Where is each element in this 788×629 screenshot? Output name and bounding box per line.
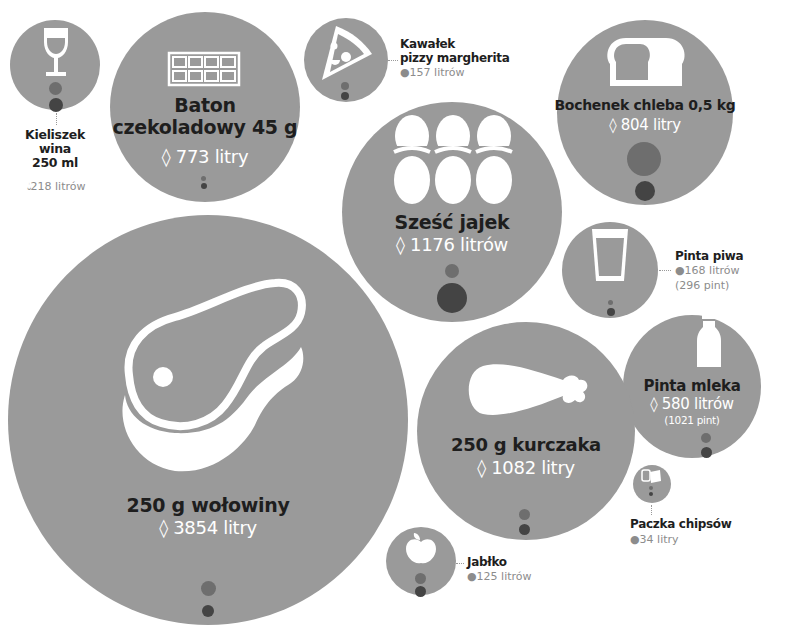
pizza-title: Kawałek pizzy margherita	[400, 37, 510, 65]
dot-blue-water	[627, 142, 661, 176]
dot-grey-water	[437, 283, 467, 313]
chocolate-title: Baton czekoladowy 45 g	[110, 94, 300, 138]
eggs-value: ◊ 1176 litrów	[342, 234, 562, 255]
apple-value: ●125 litrów	[467, 570, 532, 583]
dot-grey-water	[49, 98, 63, 112]
wine-value: 💧︎218 litrów	[10, 180, 102, 193]
chocolate-value: ◊ 773 litry	[110, 146, 300, 167]
dot-grey-water	[519, 524, 530, 535]
apple-title: Jabłko	[467, 555, 507, 569]
dot-grey-water	[415, 586, 426, 597]
dot-grey-water	[635, 181, 655, 201]
apple-icon	[406, 531, 436, 565]
bubble-chicken	[417, 322, 635, 540]
water-drop-icon: ◊	[609, 116, 616, 134]
beer-sub: (296 pint)	[675, 279, 729, 292]
chips-value: ●34 litry	[630, 533, 679, 546]
beef-title: 250 g wołowiny	[8, 494, 408, 516]
bread-title: Bochenek chleba 0,5 kg	[550, 97, 740, 113]
beer-value: ●168 litrów	[675, 264, 740, 277]
leader-line	[56, 113, 57, 125]
wine-glass-icon	[38, 26, 74, 80]
dot-grey-water	[201, 183, 207, 189]
dot-blue-water	[701, 433, 711, 443]
dot-blue-water	[201, 176, 206, 181]
dot-blue-water	[201, 581, 216, 596]
chips-title: Paczka chipsów	[630, 517, 732, 531]
leader-line	[388, 60, 398, 61]
water-drop-icon: ●	[400, 66, 410, 79]
wine-title: Kieliszek wina 250 ml	[10, 128, 100, 170]
dot-blue-water	[608, 300, 613, 305]
water-drop-icon: ●	[675, 264, 685, 277]
dot-grey-water	[202, 605, 214, 617]
chicken-leg-icon	[463, 362, 589, 418]
pizza-value: ●157 litrów	[400, 66, 465, 79]
leader-line	[659, 270, 671, 271]
water-drop-icon: ◊	[477, 457, 486, 478]
leader-line	[651, 505, 652, 515]
milk-bottle-icon	[697, 315, 721, 367]
dot-grey-water	[607, 308, 615, 316]
water-drop-icon: ◊	[650, 395, 657, 413]
dot-blue-water	[415, 573, 426, 584]
dot-blue-water	[445, 264, 459, 278]
water-drop-icon: ●	[630, 533, 640, 546]
beer-glass-icon	[592, 229, 628, 281]
chicken-value: ◊ 1082 litry	[417, 457, 635, 478]
milk-sub: (1021 pint)	[623, 414, 761, 426]
water-drop-icon: ◊	[396, 234, 405, 255]
bread-value: ◊ 804 litry	[557, 116, 733, 134]
leader-line	[456, 563, 464, 564]
dot-blue-water	[649, 486, 653, 490]
dot-grey-water	[701, 447, 712, 458]
milk-title: Pinta mleka	[623, 377, 761, 395]
beer-title: Pinta piwa	[675, 249, 743, 263]
dot-grey-water	[649, 492, 653, 496]
dot-blue-water	[519, 509, 530, 520]
water-drop-icon: ◊	[159, 517, 168, 538]
eggs-title: Sześć jajek	[342, 211, 562, 233]
water-drop-icon: ◊	[162, 146, 171, 167]
eggs-icon	[392, 116, 514, 206]
pizza-slice-icon	[320, 24, 374, 80]
dot-blue-water	[49, 82, 62, 95]
milk-value: ◊ 580 litrów	[623, 395, 761, 413]
dot-blue-water	[341, 82, 349, 90]
water-drop-icon: ●	[467, 570, 477, 583]
chocolate-bar-icon	[168, 52, 240, 86]
chips-bag-icon	[642, 468, 662, 484]
chicken-title: 250 g kurczaka	[417, 434, 635, 455]
beef-value: ◊ 3854 litry	[8, 517, 408, 538]
bread-icon	[606, 34, 686, 86]
steak-icon	[115, 275, 305, 475]
dot-grey-water	[341, 92, 349, 100]
